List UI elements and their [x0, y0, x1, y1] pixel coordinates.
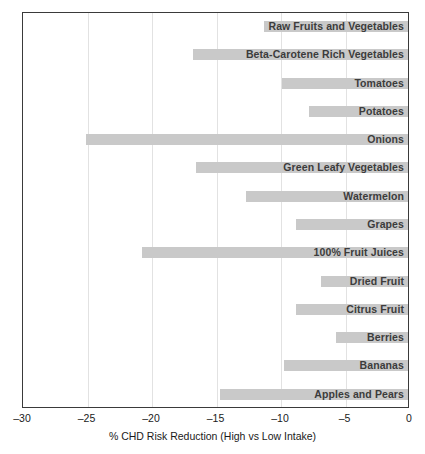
- bar-row[interactable]: Apples and Pears: [23, 381, 408, 408]
- bar-row[interactable]: Watermelon: [23, 183, 408, 211]
- bar-category-label: Citrus Fruit: [346, 300, 404, 319]
- bar-category-label: Raw Fruits and Vegetables: [268, 17, 404, 36]
- bar-row[interactable]: Grapes: [23, 211, 408, 239]
- bar-category-label: Beta-Carotene Rich Vegetables: [246, 45, 404, 64]
- bar-row[interactable]: Raw Fruits and Vegetables: [23, 13, 408, 41]
- bar-row[interactable]: Beta-Carotene Rich Vegetables: [23, 41, 408, 69]
- bar-category-label: Grapes: [367, 215, 404, 234]
- bar-row[interactable]: Dried Fruit: [23, 268, 408, 296]
- bar-row[interactable]: Potatoes: [23, 98, 408, 126]
- bar-category-label: 100% Fruit Juices: [314, 243, 404, 262]
- bar-category-label: Watermelon: [343, 187, 404, 206]
- bar-row[interactable]: 100% Fruit Juices: [23, 239, 408, 267]
- x-tick-label: –10: [271, 412, 289, 424]
- bar-category-label: Green Leafy Vegetables: [283, 158, 404, 177]
- bar-row[interactable]: Citrus Fruit: [23, 296, 408, 324]
- bar-row[interactable]: Onions: [23, 126, 408, 154]
- bar-row[interactable]: Berries: [23, 324, 408, 352]
- x-tick-label: 0: [406, 412, 412, 424]
- bar-row[interactable]: Bananas: [23, 352, 408, 380]
- bar-category-label: Dried Fruit: [350, 272, 404, 291]
- x-tick-label: –30: [13, 412, 31, 424]
- bar-row[interactable]: Green Leafy Vegetables: [23, 154, 408, 182]
- x-tick-label: –5: [339, 412, 351, 424]
- bar-category-label: Apples and Pears: [314, 385, 404, 404]
- bar-category-label: Berries: [367, 328, 404, 347]
- chd-risk-reduction-bar-chart: Raw Fruits and VegetablesBeta-Carotene R…: [0, 0, 425, 454]
- bar-category-label: Bananas: [360, 356, 404, 375]
- plot-area: Raw Fruits and VegetablesBeta-Carotene R…: [22, 12, 409, 408]
- bar-row[interactable]: Tomatoes: [23, 70, 408, 98]
- bar-category-label: Tomatoes: [354, 74, 404, 93]
- bar-category-label: Potatoes: [359, 102, 404, 121]
- x-tick-label: –20: [142, 412, 160, 424]
- bar-category-label: Onions: [367, 130, 404, 149]
- x-tick-label: –15: [207, 412, 225, 424]
- x-tick-label: –25: [78, 412, 96, 424]
- x-axis-label: % CHD Risk Reduction (High vs Low Intake…: [0, 430, 425, 442]
- bar[interactable]: [86, 134, 409, 145]
